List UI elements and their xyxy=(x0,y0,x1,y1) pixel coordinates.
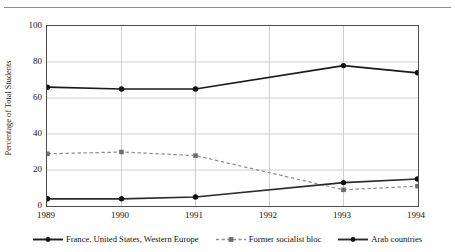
plot-svg xyxy=(47,26,418,206)
data-point-marker xyxy=(341,180,346,185)
data-point-marker xyxy=(119,150,124,155)
legend-item-former-socialist-bloc: Former socialist bloc xyxy=(216,234,322,244)
chart-figure: Table 3. Foreign Study Destinations of T… xyxy=(0,0,455,252)
data-point-marker xyxy=(119,86,124,91)
data-point-marker xyxy=(47,152,50,157)
legend-label: France, United States, Western Europe xyxy=(66,234,199,244)
x-tick-label: 1992 xyxy=(241,211,295,220)
square-marker-icon xyxy=(216,235,246,244)
data-point-marker xyxy=(415,184,418,189)
data-point-marker xyxy=(193,86,198,91)
data-point-marker xyxy=(341,188,346,193)
data-point-marker xyxy=(119,196,124,201)
data-point-marker xyxy=(47,85,50,90)
plot-area xyxy=(46,25,419,207)
series-line-0 xyxy=(47,63,418,92)
data-point-marker xyxy=(415,176,418,181)
data-point-marker xyxy=(341,63,346,68)
legend-item-france-us-western-europe: France, United States, Western Europe xyxy=(33,234,199,244)
gridlines xyxy=(47,26,418,206)
x-tick-label: 1990 xyxy=(93,211,147,220)
data-point-marker xyxy=(47,196,50,201)
series-line-1 xyxy=(47,150,418,192)
chart-legend: France, United States, Western Europe Fo… xyxy=(0,231,455,247)
diamond-marker-icon xyxy=(338,235,368,244)
x-tick-label: 1993 xyxy=(315,211,369,220)
diamond-marker-icon xyxy=(33,235,63,244)
legend-item-arab-countries: Arab countries xyxy=(338,234,422,244)
data-point-marker xyxy=(193,153,198,158)
x-tick-label: 1991 xyxy=(167,211,221,220)
data-point-marker xyxy=(415,70,418,75)
x-tick-label: 1989 xyxy=(19,211,73,220)
x-tick-label: 1994 xyxy=(389,211,443,220)
legend-label: Arab countries xyxy=(371,234,422,244)
legend-label: Former socialist bloc xyxy=(249,234,322,244)
data-point-marker xyxy=(193,194,198,199)
